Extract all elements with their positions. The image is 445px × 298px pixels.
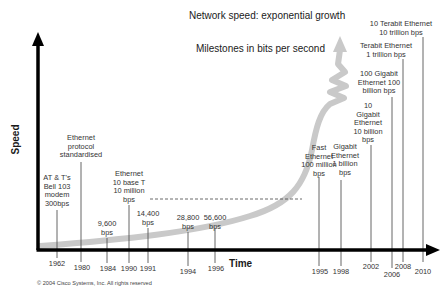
milestone-label-2006: 100 Gigabit Ethernet 100 billion bps <box>354 70 404 96</box>
y-axis-label: Speed <box>10 124 21 154</box>
year-1962: 1962 <box>49 259 65 268</box>
milestone-label-2008: Terabit Ethernet 1 trillion bps <box>354 42 418 59</box>
y-axis-arrowhead <box>32 32 44 46</box>
milestone-label-1996: 56,600 bps <box>200 214 230 231</box>
milestone-label-1962: AT & T's Bell 103 modem 300bps <box>42 174 72 208</box>
year-2010: 2010 <box>415 267 431 276</box>
milestone-label-1998: Gigabit Ethernet 1 billion bps <box>328 143 362 177</box>
year-1984: 1984 <box>100 264 116 273</box>
milestone-label-1990: Ethernet 10 base T 10 million bps <box>108 170 150 204</box>
milestone-label-2002: 10 Gigabit Ethernet 10 billion bps <box>348 102 388 145</box>
year-1996: 1996 <box>208 264 224 273</box>
milestone-label-1991: 14,400 bps <box>133 210 163 227</box>
x-axis-arrowhead <box>426 244 440 256</box>
chart-title: Network speed: exponential growth <box>189 10 345 21</box>
milestone-label-1980: Ethernet protocol standardised <box>56 134 106 160</box>
copyright-notice: © 2004 Cisco Systems, Inc. All rights re… <box>37 280 152 286</box>
year-1980: 1980 <box>74 263 90 272</box>
year-1990: 1990 <box>121 264 137 273</box>
chart-subtitle: Milestones in bits per second <box>196 43 325 54</box>
year-1995: 1995 <box>312 267 328 276</box>
x-axis-label: Time <box>229 258 252 269</box>
year-1998: 1998 <box>333 267 349 276</box>
year-2008: 2008 <box>395 262 411 271</box>
year-1994: 1994 <box>180 267 196 276</box>
year-1991: 1991 <box>140 264 156 273</box>
year-2002: 2002 <box>363 262 379 271</box>
milestone-label-2010: 10 Terabit Ethernet 10 trillion bps <box>365 20 437 37</box>
diagram-canvas: Network speed: exponential growth Milest… <box>0 0 445 298</box>
milestone-label-1984: 9,600 bps <box>92 220 122 237</box>
growth-arrowhead <box>333 36 347 52</box>
milestone-label-1994: 28,800 bps <box>173 214 203 231</box>
year-2006: 2006 <box>384 270 400 279</box>
